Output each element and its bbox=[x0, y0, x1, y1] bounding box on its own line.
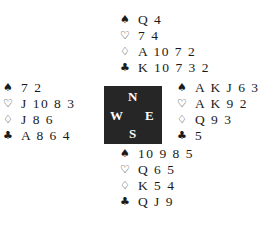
diamond-icon: ♢ bbox=[120, 44, 138, 60]
compass-south-label: S bbox=[129, 127, 136, 140]
spade-icon: ♠ bbox=[177, 80, 195, 96]
diamond-icon: ♢ bbox=[177, 112, 195, 128]
compass-west-label: W bbox=[110, 109, 123, 122]
west-clubs: A 8 6 4 bbox=[21, 128, 71, 144]
club-icon: ♣ bbox=[177, 128, 195, 144]
south-spades: 10 9 8 5 bbox=[138, 146, 194, 162]
east-diamonds: Q 9 3 bbox=[195, 112, 233, 128]
heart-icon: ♡ bbox=[177, 96, 195, 112]
west-hearts: J 10 8 3 bbox=[21, 96, 75, 112]
diamond-icon: ♢ bbox=[3, 112, 21, 128]
north-hearts: 7 4 bbox=[138, 28, 159, 44]
club-icon: ♣ bbox=[3, 128, 21, 144]
club-icon: ♣ bbox=[120, 60, 138, 76]
north-clubs-row: ♣ K 10 7 3 2 bbox=[120, 60, 210, 76]
north-hand: ♠ Q 4 ♡ 7 4 ♢ A 10 7 2 ♣ K 10 7 3 2 bbox=[120, 12, 210, 76]
west-spades-row: ♠ 7 2 bbox=[3, 80, 75, 96]
south-diamonds-row: ♢ K 5 4 bbox=[120, 178, 194, 194]
south-clubs-row: ♣ Q J 9 bbox=[120, 194, 194, 210]
spade-icon: ♠ bbox=[120, 146, 138, 162]
north-diamonds-row: ♢ A 10 7 2 bbox=[120, 44, 210, 60]
north-hearts-row: ♡ 7 4 bbox=[120, 28, 210, 44]
west-spades: 7 2 bbox=[21, 80, 42, 96]
east-clubs-row: ♣ 5 bbox=[177, 128, 260, 144]
east-hand: ♠ A K J 6 3 ♡ A K 9 2 ♢ Q 9 3 ♣ 5 bbox=[177, 80, 260, 144]
spade-icon: ♠ bbox=[120, 12, 138, 28]
south-diamonds: K 5 4 bbox=[138, 178, 176, 194]
west-hearts-row: ♡ J 10 8 3 bbox=[3, 96, 75, 112]
south-clubs: Q J 9 bbox=[138, 194, 174, 210]
north-diamonds: A 10 7 2 bbox=[138, 44, 196, 60]
diamond-icon: ♢ bbox=[120, 178, 138, 194]
spade-icon: ♠ bbox=[3, 80, 21, 96]
west-diamonds-row: ♢ J 8 6 bbox=[3, 112, 75, 128]
north-spades-row: ♠ Q 4 bbox=[120, 12, 210, 28]
east-diamonds-row: ♢ Q 9 3 bbox=[177, 112, 260, 128]
east-spades: A K J 6 3 bbox=[195, 80, 260, 96]
west-hand: ♠ 7 2 ♡ J 10 8 3 ♢ J 8 6 ♣ A 8 6 4 bbox=[3, 80, 75, 144]
north-clubs: K 10 7 3 2 bbox=[138, 60, 210, 76]
south-hearts-row: ♡ Q 6 5 bbox=[120, 162, 194, 178]
east-hearts: A K 9 2 bbox=[195, 96, 248, 112]
east-clubs: 5 bbox=[195, 128, 203, 144]
east-spades-row: ♠ A K J 6 3 bbox=[177, 80, 260, 96]
south-spades-row: ♠ 10 9 8 5 bbox=[120, 146, 194, 162]
heart-icon: ♡ bbox=[3, 96, 21, 112]
compass-box: N W E S bbox=[104, 86, 162, 144]
east-hearts-row: ♡ A K 9 2 bbox=[177, 96, 260, 112]
compass-east-label: E bbox=[145, 109, 154, 122]
west-diamonds: J 8 6 bbox=[21, 112, 54, 128]
compass-north-label: N bbox=[128, 90, 137, 103]
north-spades: Q 4 bbox=[138, 12, 162, 28]
south-hearts: Q 6 5 bbox=[138, 162, 176, 178]
west-clubs-row: ♣ A 8 6 4 bbox=[3, 128, 75, 144]
heart-icon: ♡ bbox=[120, 162, 138, 178]
south-hand: ♠ 10 9 8 5 ♡ Q 6 5 ♢ K 5 4 ♣ Q J 9 bbox=[120, 146, 194, 210]
club-icon: ♣ bbox=[120, 194, 138, 210]
heart-icon: ♡ bbox=[120, 28, 138, 44]
